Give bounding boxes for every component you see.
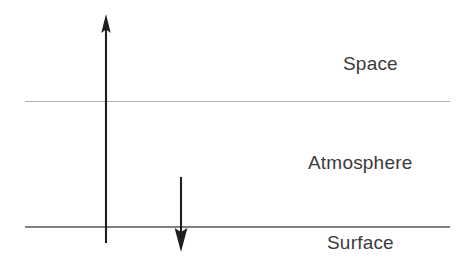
downward-arrow	[175, 177, 188, 252]
upward-arrow-head	[101, 14, 110, 33]
downward-arrow-head	[175, 228, 188, 252]
diagram-canvas: Space Atmosphere Surface	[0, 0, 472, 268]
upward-arrow	[101, 14, 110, 243]
surface-boundary-line	[25, 226, 450, 228]
label-atmosphere: Atmosphere	[308, 153, 412, 172]
space-atmosphere-boundary-line	[25, 101, 450, 102]
label-space: Space	[343, 54, 398, 73]
label-surface: Surface	[327, 233, 394, 252]
